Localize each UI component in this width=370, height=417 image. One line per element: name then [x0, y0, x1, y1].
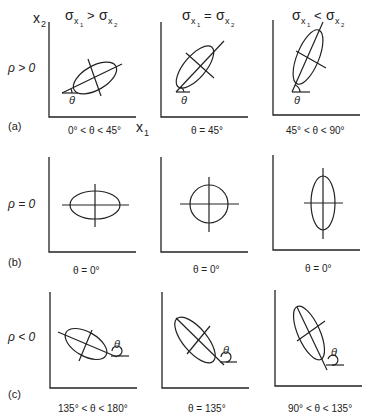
theta-label: θ — [181, 94, 187, 106]
svg-text:x: x — [301, 16, 306, 26]
svg-text:x: x — [225, 16, 230, 26]
theta-label: θ — [294, 94, 300, 106]
svg-text:σ: σ — [326, 7, 335, 23]
svg-text:1: 1 — [197, 22, 201, 28]
svg-text:x: x — [191, 16, 196, 26]
svg-text:1: 1 — [144, 128, 149, 138]
svg-text:x: x — [108, 16, 113, 26]
row-c: ρ < 0 (c) θ 135° < θ < 180° θ θ = 135° — [7, 290, 362, 414]
theta-label: θ — [331, 346, 337, 358]
caption-c1: 135° < θ < 180° — [58, 403, 128, 414]
axes — [49, 22, 136, 117]
svg-text:2: 2 — [114, 22, 118, 28]
svg-text:=: = — [204, 8, 212, 23]
axes — [273, 20, 360, 115]
caption-b2: θ = 0° — [193, 264, 220, 275]
panel-c1: θ 135° < θ < 180° — [50, 292, 137, 414]
minor-axis — [296, 51, 326, 68]
svg-text:2: 2 — [41, 19, 46, 29]
caption-a2: θ = 45° — [191, 125, 223, 136]
svg-text:σ: σ — [65, 7, 74, 23]
column-header-2: σ x 1 = σ x 2 — [182, 7, 235, 28]
theta-label: θ — [223, 344, 229, 356]
row-tag-b: (b) — [8, 256, 21, 268]
svg-text:>: > — [87, 8, 95, 23]
svg-text:σ: σ — [99, 7, 108, 23]
panel-b2: θ = 0° — [161, 157, 248, 275]
minor-axis — [297, 321, 325, 341]
row-b: ρ = 0 (b) θ = 0° θ = 0° θ = 0° — [7, 155, 360, 276]
axes — [50, 292, 137, 388]
panel-b1: θ = 0° — [49, 157, 136, 276]
svg-text:σ: σ — [182, 7, 191, 23]
svg-text:1: 1 — [80, 22, 84, 28]
axes — [162, 292, 249, 388]
angle-arc — [295, 85, 300, 92]
rho-label-b: ρ = 0 — [7, 197, 36, 211]
panel-a2: θ θ = 45° — [161, 22, 248, 136]
svg-text:x: x — [136, 119, 143, 135]
major-axis — [58, 332, 117, 357]
theta-label: θ — [69, 94, 75, 106]
caption-a3: 45° < θ < 90° — [286, 125, 345, 136]
row-tag-a: (a) — [8, 120, 21, 132]
svg-text:x: x — [74, 16, 79, 26]
svg-text:2: 2 — [231, 22, 235, 28]
ellipse — [168, 311, 222, 369]
svg-text:1: 1 — [307, 22, 311, 28]
panel-c3: θ 90° < θ < 135° — [275, 290, 362, 414]
ellipse — [170, 40, 220, 94]
rho-label-c: ρ < 0 — [7, 330, 36, 344]
panel-a3: θ 45° < θ < 90° — [273, 20, 360, 136]
caption-c2: θ = 135° — [188, 403, 226, 414]
x-axis-label: x 1 — [136, 119, 149, 138]
minor-axis — [187, 326, 210, 354]
y-axis-label: x 2 — [33, 10, 46, 29]
major-axis — [176, 318, 224, 365]
column-header-3: σ x 1 < σ x 2 — [292, 7, 345, 28]
column-header-1: σ x 1 > σ x 2 — [65, 7, 118, 28]
panel-a1: θ 0° < θ < 45° — [49, 22, 136, 136]
axes — [275, 290, 362, 386]
panel-c2: θ θ = 135° — [162, 292, 249, 414]
row-a: ρ > 0 (a) θ 0° < θ < 45° θ θ = 45° — [7, 20, 360, 136]
correlation-ellipses-diagram: σ x 1 > σ x 2 σ x 1 = σ x 2 σ x 1 < σ x … — [0, 0, 370, 417]
theta-label: θ — [114, 338, 120, 350]
caption-b3: θ = 0° — [305, 263, 332, 274]
rho-label-a: ρ > 0 — [7, 61, 36, 75]
caption-a1: 0° < θ < 45° — [68, 125, 121, 136]
svg-text:x: x — [33, 10, 40, 26]
row-tag-c: (c) — [8, 388, 21, 400]
caption-c3: 90° < θ < 135° — [288, 403, 352, 414]
svg-text:<: < — [314, 8, 322, 23]
svg-text:σ: σ — [216, 7, 225, 23]
panel-b3: θ = 0° — [273, 155, 360, 274]
caption-b1: θ = 0° — [73, 265, 100, 276]
svg-text:2: 2 — [341, 22, 345, 28]
svg-text:σ: σ — [292, 7, 301, 23]
svg-text:x: x — [335, 16, 340, 26]
